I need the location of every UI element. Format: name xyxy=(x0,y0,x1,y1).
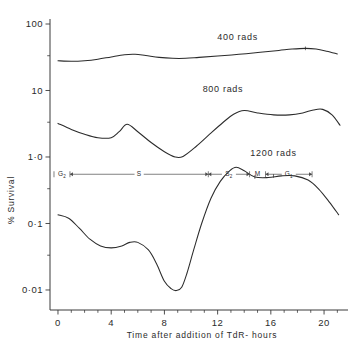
y-axis-tick-label: 100 xyxy=(26,18,43,29)
x-axis-tick-label: 12 xyxy=(212,317,224,328)
phase-s2-subscript: 2 xyxy=(230,174,233,179)
y-axis-tick-label: 0·01 xyxy=(22,284,43,295)
x-axis-tick-label: 8 xyxy=(162,317,168,328)
series-label-1200-rads: 1200 rads xyxy=(250,148,296,158)
survival-figure: 100101·00·10·01 048121620 400 rads800 ra… xyxy=(0,0,354,349)
phase-m: M xyxy=(255,170,261,177)
y-axis-tick-label: 0·1 xyxy=(28,218,43,229)
x-axis-tick-label: 0 xyxy=(55,317,61,328)
x-axis-title: Time after addition of TdR- hours xyxy=(127,330,278,340)
x-axis-tick-label: 4 xyxy=(108,317,114,328)
y-axis-title: % Survival xyxy=(6,176,16,224)
x-axis-tick-label: 20 xyxy=(318,317,330,328)
phase-s: S xyxy=(137,170,142,177)
y-axis-tick-label: 10 xyxy=(31,85,43,96)
chart-canvas: 100101·00·10·01 048121620 400 rads800 ra… xyxy=(0,0,354,349)
phase-g2-start-subscript: 2 xyxy=(63,174,66,179)
phase-g1-subscript: 1 xyxy=(290,174,293,179)
y-axis-tick-label: 1·0 xyxy=(28,151,43,162)
series-label-800-rads: 800 rads xyxy=(203,84,244,94)
x-axis-tick-label: 16 xyxy=(265,317,277,328)
series-label-400-rads: 400 rads xyxy=(217,32,258,42)
